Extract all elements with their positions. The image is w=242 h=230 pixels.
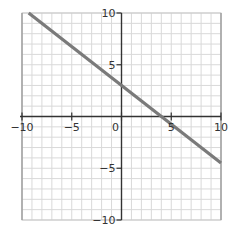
data-line	[29, 13, 221, 163]
x-tick-label: −10	[10, 121, 33, 134]
x-tick-label: −5	[64, 121, 80, 134]
y-tick-label: −5	[99, 162, 115, 175]
x-tick-label: 0	[112, 121, 119, 134]
x-tick-label: 5	[168, 121, 175, 134]
y-tick-label: 10	[102, 7, 116, 20]
plotted-line	[29, 13, 221, 163]
line-graph: −10−50510−10−5510	[0, 0, 242, 230]
x-tick-label: 10	[214, 121, 228, 134]
coordinate-plane: −10−50510−10−5510	[0, 0, 242, 230]
y-tick-label: −10	[92, 214, 115, 227]
y-tick-label: 5	[109, 59, 116, 72]
